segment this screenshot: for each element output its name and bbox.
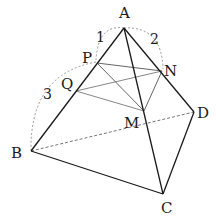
label-p: P bbox=[82, 49, 92, 67]
label-n: N bbox=[164, 62, 177, 80]
label-a: A bbox=[118, 4, 130, 22]
label-c: C bbox=[161, 199, 172, 217]
edge-bc bbox=[31, 151, 163, 194]
ratio-label-3: 3 bbox=[43, 86, 52, 102]
label-d: D bbox=[197, 104, 209, 122]
segment-pn bbox=[97, 63, 162, 71]
label-q: Q bbox=[61, 75, 73, 93]
ratio-label-2: 2 bbox=[150, 31, 159, 47]
tetrahedron-diagram: A B C D P Q N M 1 2 3 bbox=[0, 0, 216, 224]
label-b: B bbox=[11, 144, 22, 162]
edge-cd bbox=[163, 112, 194, 194]
segment-nm bbox=[144, 71, 162, 111]
label-m: M bbox=[124, 114, 139, 132]
ratio-label-1: 1 bbox=[96, 29, 105, 45]
edge-ac bbox=[124, 28, 163, 194]
